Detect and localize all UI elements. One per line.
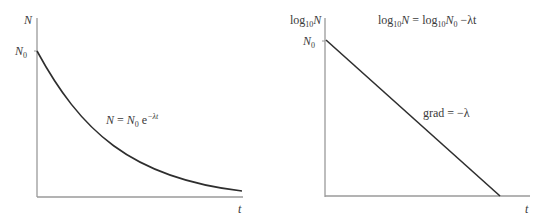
log-equation: log10N = log10N0 −λt [378, 14, 476, 26]
right-x-axis-label: t [525, 203, 528, 215]
left-x-axis-label: t [238, 203, 241, 215]
gradient-annotation: grad = −λ [423, 107, 470, 119]
right-y-tick-n0: N0 [303, 35, 315, 47]
left-y-axis-label: N [24, 14, 32, 26]
decay-equation: N = N0 e−λt [106, 114, 158, 126]
right-y-axis-label: log10N [290, 14, 321, 26]
left-y-tick-n0: N0 [15, 45, 27, 57]
log-linear-line [326, 40, 500, 196]
